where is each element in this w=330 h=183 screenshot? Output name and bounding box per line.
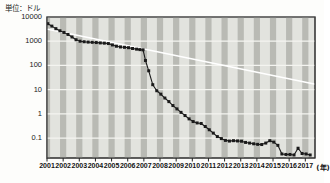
data-point-marker xyxy=(236,139,239,142)
data-point-marker xyxy=(175,107,178,110)
data-point-marker xyxy=(268,139,271,142)
data-point-marker xyxy=(167,100,170,103)
data-point-marker xyxy=(95,41,98,44)
data-point-marker xyxy=(127,46,130,49)
data-point-marker xyxy=(79,40,82,43)
data-point-marker xyxy=(208,128,211,131)
data-point-marker xyxy=(284,153,287,156)
year-band xyxy=(157,17,163,158)
data-point-marker xyxy=(204,125,207,128)
data-point-marker xyxy=(119,45,122,48)
x-axis-unit-label: (年) xyxy=(316,162,329,172)
data-point-marker xyxy=(192,120,195,123)
year-band xyxy=(173,17,179,158)
year-band xyxy=(270,17,276,158)
data-point-marker xyxy=(188,117,191,120)
data-point-marker xyxy=(58,29,61,32)
data-point-marker xyxy=(111,43,114,46)
data-point-marker xyxy=(50,25,53,28)
data-point-marker xyxy=(155,89,158,92)
y-tick-label: 10000 xyxy=(8,12,42,21)
data-point-marker xyxy=(272,141,275,144)
data-point-marker xyxy=(256,143,259,146)
year-band xyxy=(221,17,227,158)
data-point-marker xyxy=(293,153,296,156)
data-point-marker xyxy=(184,114,187,117)
data-point-marker xyxy=(75,38,78,41)
year-band xyxy=(189,17,195,158)
data-point-marker xyxy=(240,140,243,143)
data-point-marker xyxy=(200,122,203,125)
data-point-marker xyxy=(196,121,199,124)
data-point-marker xyxy=(107,42,110,45)
data-point-marker xyxy=(135,48,138,51)
data-point-marker xyxy=(288,153,291,156)
data-point-marker xyxy=(212,132,215,135)
data-point-marker xyxy=(71,35,74,38)
data-point-marker xyxy=(115,45,118,48)
data-point-marker xyxy=(87,41,90,44)
data-point-marker xyxy=(297,147,300,150)
data-point-marker xyxy=(144,59,147,62)
data-point-marker xyxy=(147,69,150,72)
year-band xyxy=(60,17,66,158)
data-point-marker xyxy=(131,47,134,50)
year-band xyxy=(302,17,308,158)
data-point-marker xyxy=(280,152,283,155)
y-tick-label: 10 xyxy=(8,85,42,94)
y-tick-label: 1 xyxy=(8,109,42,118)
data-point-marker xyxy=(123,46,126,49)
y-tick-label: 0.1 xyxy=(8,133,42,142)
data-point-marker xyxy=(99,41,102,44)
data-point-marker xyxy=(163,97,166,100)
year-band xyxy=(254,17,260,158)
data-point-marker xyxy=(91,41,94,44)
data-point-marker xyxy=(66,33,69,36)
year-band xyxy=(76,17,82,158)
data-point-marker xyxy=(232,139,235,142)
data-point-marker xyxy=(83,40,86,43)
data-point-marker xyxy=(228,140,231,143)
data-point-marker xyxy=(142,48,145,51)
year-band xyxy=(141,17,147,158)
year-band xyxy=(125,17,131,158)
data-point-marker xyxy=(171,104,174,107)
data-point-marker xyxy=(216,135,219,138)
year-band xyxy=(238,17,244,158)
data-point-marker xyxy=(62,31,65,34)
x-tick-label: 2017 xyxy=(293,162,317,169)
data-point-marker xyxy=(151,83,154,86)
y-tick-label: 100 xyxy=(8,60,42,69)
data-point-marker xyxy=(103,42,106,45)
year-band xyxy=(108,17,114,158)
data-point-marker xyxy=(309,153,312,156)
year-band xyxy=(286,17,292,158)
y-tick-label: 1000 xyxy=(8,36,42,45)
year-band xyxy=(205,17,211,158)
data-point-marker xyxy=(138,48,141,51)
data-point-marker xyxy=(244,141,247,144)
data-point-marker xyxy=(220,137,223,140)
data-point-marker xyxy=(260,143,263,146)
data-point-marker xyxy=(180,111,183,114)
data-point-marker xyxy=(159,93,162,96)
data-point-marker xyxy=(305,152,308,155)
data-point-marker xyxy=(301,152,304,155)
data-point-marker xyxy=(224,139,227,142)
data-point-marker xyxy=(248,142,251,145)
data-point-marker xyxy=(54,27,57,30)
data-point-marker xyxy=(276,144,279,147)
data-point-marker xyxy=(252,142,255,145)
data-point-marker xyxy=(264,142,267,145)
